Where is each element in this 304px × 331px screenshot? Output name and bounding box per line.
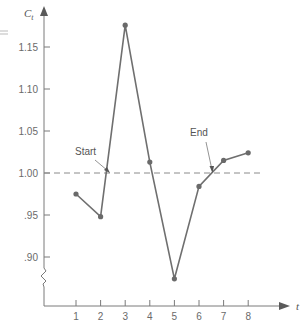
y-tick-label: .90 (24, 252, 38, 263)
x-tick-label: 8 (245, 311, 251, 322)
data-point (172, 276, 177, 281)
annotation-end: End (190, 127, 214, 173)
svg-text:Start: Start (75, 146, 96, 157)
data-point (196, 184, 201, 189)
y-tick-label: 1.15 (19, 42, 39, 53)
x-tick-label: 3 (122, 311, 128, 322)
x-tick-label: 1 (73, 311, 79, 322)
x-tick-label: 2 (98, 311, 104, 322)
data-point (246, 150, 251, 155)
data-point (221, 158, 226, 163)
data-point (98, 214, 103, 219)
data-point (147, 159, 152, 164)
x-tick-label: 4 (147, 311, 153, 322)
edge-mark (0, 31, 8, 34)
y-tick-label: 1.10 (19, 84, 39, 95)
svg-text:End: End (190, 127, 208, 138)
annotation-start: Start (75, 146, 110, 173)
y-axis-title: Ct (24, 7, 34, 22)
y-tick-label: 1.00 (19, 168, 39, 179)
x-tick-label: 7 (221, 311, 227, 322)
y-axis: 1.151.101.051.00.95.90 (19, 6, 50, 306)
x-tick-label: 5 (172, 311, 178, 322)
data-point (73, 191, 78, 196)
y-axis-arrow-icon (40, 6, 48, 16)
data-point (123, 23, 128, 28)
y-tick-label: 1.05 (19, 126, 39, 137)
x-axis: 12345678 (44, 300, 290, 322)
y-tick-label: .95 (24, 210, 38, 221)
x-axis-arrow-icon (279, 302, 290, 310)
x-axis-title: t (296, 300, 300, 312)
x-tick-label: 6 (196, 311, 202, 322)
axis-break-icon (41, 268, 46, 306)
chart: 1.151.101.051.00.95.90 Ct 12345678 t Sta… (0, 0, 304, 331)
data-series (73, 23, 250, 282)
